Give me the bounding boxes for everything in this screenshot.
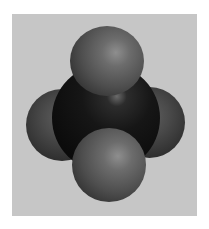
top-outer-atom: top outer atom (70, 26, 144, 96)
bottom-outer-atom: bottom outer atom (72, 128, 146, 202)
image-description: Tetrahedral molecule with a large dark c… (12, 14, 13, 15)
